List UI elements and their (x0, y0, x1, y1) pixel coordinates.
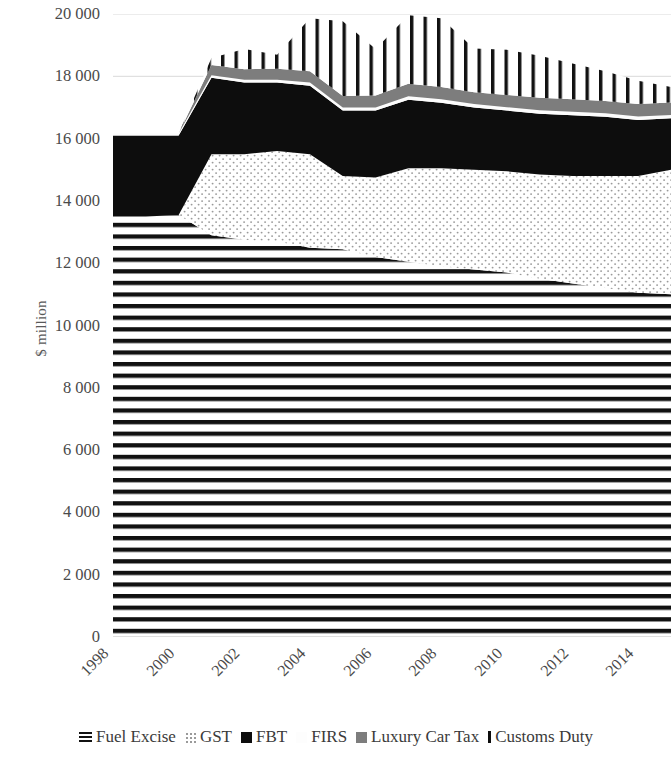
legend-item-label: Customs Duty (495, 727, 593, 747)
legend-item-label: Fuel Excise (96, 727, 176, 747)
legend-item-label: GST (200, 727, 232, 747)
light-dots-swatch (185, 732, 196, 743)
white-swatch (296, 732, 307, 743)
legend-item[interactable]: GST (185, 727, 232, 747)
x-axis-tick-labels: 199820002002200420062008201020122014 (0, 0, 672, 757)
legend-item[interactable]: Luxury Car Tax (356, 727, 479, 747)
x-axis-tick-label: 2014 (602, 644, 637, 679)
horizontal-lines-swatch (79, 732, 92, 742)
legend-item[interactable]: Fuel Excise (79, 727, 176, 747)
legend-item-label: FIRS (311, 727, 347, 747)
legend-item[interactable]: Customs Duty (488, 727, 593, 747)
chart-legend: Fuel ExciseGSTFBTFIRSLuxury Car TaxCusto… (0, 727, 672, 747)
x-axis-tick-label: 2008 (405, 644, 440, 679)
vertical-lines-swatch (488, 731, 491, 743)
x-axis-tick-label: 2006 (340, 644, 375, 679)
legend-item-label: FBT (256, 727, 287, 747)
solid-black-swatch (241, 732, 252, 743)
legend-item-label: Luxury Car Tax (371, 727, 479, 747)
x-axis-tick-label: 2004 (274, 644, 309, 679)
x-axis-tick-label: 1998 (77, 644, 112, 679)
x-axis-tick-label: 2012 (537, 644, 572, 679)
x-axis-tick-label: 2002 (208, 644, 243, 679)
x-axis-tick-label: 2010 (471, 644, 506, 679)
legend-item[interactable]: FBT (241, 727, 287, 747)
stacked-area-chart: $ million 20 00018 00016 00014 00012 000… (0, 0, 672, 757)
solid-gray-swatch (356, 732, 367, 743)
x-axis-tick-label: 2000 (143, 644, 178, 679)
legend-item[interactable]: FIRS (296, 727, 347, 747)
